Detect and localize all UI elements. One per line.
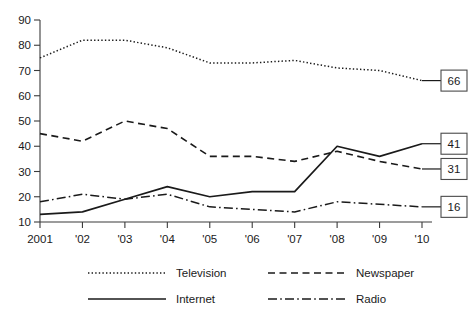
y-tick-label: 90 [18,14,31,26]
legend-label-radio: Radio [356,293,386,305]
x-tick-label: '08 [330,233,345,245]
x-tick-label: 2001 [27,233,53,245]
x-tick-label: '04 [160,233,176,245]
x-tick-label: '07 [287,233,302,245]
callout-value-internet: 41 [448,138,461,150]
legend-label-television: Television [176,267,227,279]
y-tick-label: 60 [18,90,31,102]
y-tick-label: 10 [18,216,31,228]
y-tick-label: 20 [18,191,31,203]
x-tick-label: '02 [75,233,90,245]
callout-value-newspaper: 31 [448,163,461,175]
y-tick-label: 80 [18,39,31,51]
caption-clip [0,310,476,316]
y-tick-label: 40 [18,140,31,152]
y-tick-label: 50 [18,115,31,127]
line-chart: 102030405060708090 2001'02'03'04'05'06'0… [0,0,476,316]
caption-strip [0,310,476,316]
y-tick-label: 70 [18,65,31,77]
x-tick-label: '05 [202,233,217,245]
x-tick-label: '03 [117,233,132,245]
x-tick-label: '09 [372,233,387,245]
y-tick-label: 30 [18,166,31,178]
callout-value-television: 66 [448,75,461,87]
callout-value-radio: 16 [448,201,461,213]
legend-label-newspaper: Newspaper [356,267,414,279]
x-tick-label: '06 [245,233,260,245]
chart-figure: 102030405060708090 2001'02'03'04'05'06'0… [0,0,476,316]
legend-label-internet: Internet [176,293,216,305]
x-tick-label: '10 [415,233,430,245]
